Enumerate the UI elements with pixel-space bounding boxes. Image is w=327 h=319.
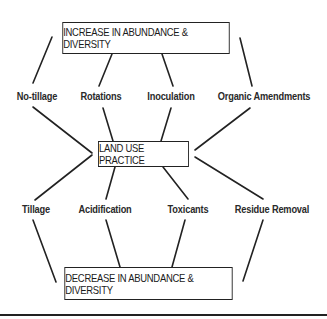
label-toxicants: Toxicants [168,203,209,215]
increase-abundance-box: INCREASE IN ABUNDANCE & DIVERSITY [62,22,229,54]
label-residue-removal: Residue Removal [235,203,309,215]
bottom-divider [0,314,327,316]
label-no-tillage: No-tillage [17,90,57,102]
land-use-practice-box: LAND USE PRACTICE [98,141,189,167]
label-inoculation: Inoculation [147,90,194,102]
label-acidification: Acidification [78,203,131,215]
increase-abundance-text: INCREASE IN ABUNDANCE & DIVERSITY [63,26,229,50]
label-tillage: Tillage [22,203,50,215]
label-organic-amendments: Organic Amendments [218,90,311,102]
decrease-abundance-box: DECREASE IN ABUNDANCE & DIVERSITY [64,267,232,300]
decrease-abundance-text: DECREASE IN ABUNDANCE & DIVERSITY [65,272,232,296]
land-use-practice-text: LAND USE PRACTICE [99,142,188,166]
label-rotations: Rotations [80,90,121,102]
